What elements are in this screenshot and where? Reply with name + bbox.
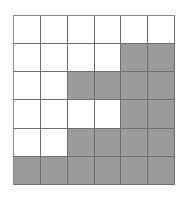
grid-cell-r3-c6	[148, 72, 175, 100]
grid-cell-r3-c2	[41, 72, 68, 100]
grid-cell-r4-c6	[148, 100, 175, 128]
grid-cell-r4-c5	[121, 100, 148, 128]
grid-cell-r6-c2	[41, 157, 68, 185]
grid-cell-r1-c4	[95, 16, 122, 44]
grid-cell-r3-c5	[121, 72, 148, 100]
grid-cell-r4-c3	[68, 100, 95, 128]
grid-cell-r5-c6	[148, 129, 175, 157]
grid-cell-r1-c1	[14, 16, 41, 44]
grid-cell-r6-c3	[68, 157, 95, 185]
grid-cell-r4-c2	[41, 100, 68, 128]
grid-cell-r3-c4	[95, 72, 122, 100]
grid-cell-r2-c1	[14, 44, 41, 72]
grid-cell-r1-c6	[148, 16, 175, 44]
grid-cell-r3-c3	[68, 72, 95, 100]
grid-cell-r1-c3	[68, 16, 95, 44]
grid-cell-r1-c5	[121, 16, 148, 44]
grid-cell-r6-c1	[14, 157, 41, 185]
top-caption	[0, 0, 188, 4]
grid-cell-r2-c5	[121, 44, 148, 72]
grid-cell-r6-c5	[121, 157, 148, 185]
grid-cell-r2-c3	[68, 44, 95, 72]
grid-cell-r6-c4	[95, 157, 122, 185]
grid-cell-r6-c6	[148, 157, 175, 185]
grid-cell-r2-c2	[41, 44, 68, 72]
grid-cell-r5-c2	[41, 129, 68, 157]
grid-cell-r5-c3	[68, 129, 95, 157]
grid-cell-r3-c1	[14, 72, 41, 100]
grid-cell-r5-c5	[121, 129, 148, 157]
grid-cell-r2-c4	[95, 44, 122, 72]
grid-cell-r2-c6	[148, 44, 175, 72]
grid-cell-r5-c1	[14, 129, 41, 157]
grid-cell-r4-c1	[14, 100, 41, 128]
grid-cell-r4-c4	[95, 100, 122, 128]
shaded-grid-figure	[13, 15, 175, 185]
grid-cell-r5-c4	[95, 129, 122, 157]
grid-cell-r1-c2	[41, 16, 68, 44]
